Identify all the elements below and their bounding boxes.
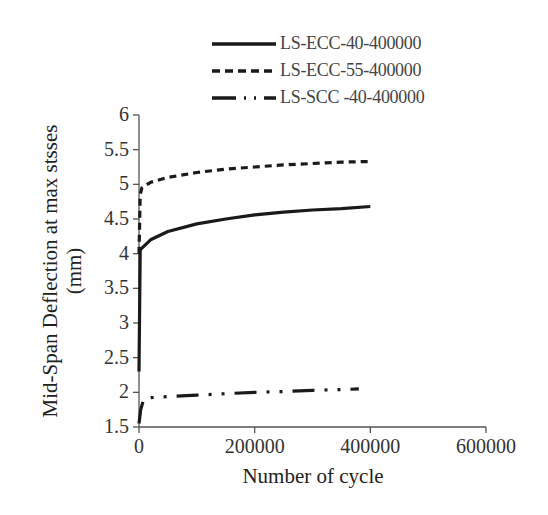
axes	[133, 115, 486, 433]
series-line-2	[139, 389, 359, 424]
y-tick-label: 2	[89, 380, 129, 403]
solid-line-swatch-icon	[210, 39, 278, 49]
legend: LS-ECC-40-400000 LS-ECC-55-400000 LS-SCC…	[210, 30, 424, 111]
y-tick-label: 6	[89, 103, 129, 126]
legend-label: LS-ECC-55-400000	[280, 60, 421, 81]
x-tick-label: 400000	[340, 435, 400, 458]
legend-item-scc-40: LS-SCC -40-400000	[210, 84, 424, 111]
y-tick-label: 4.5	[89, 207, 129, 230]
y-axis-label: Mid-Span Deflection at max stsses (mm)	[38, 125, 86, 418]
y-axis-label-line-2: (mm)	[62, 125, 86, 418]
y-tick-label: 5	[89, 172, 129, 195]
dash-dot-line-swatch-icon	[210, 93, 278, 103]
y-tick-label: 2.5	[89, 346, 129, 369]
x-axis-label: Number of cycle	[242, 464, 383, 489]
y-tick-label: 5.5	[89, 138, 129, 161]
y-tick-label: 3.5	[89, 276, 129, 299]
legend-item-ecc-40: LS-ECC-40-400000	[210, 30, 424, 57]
data-lines	[139, 162, 370, 424]
x-tick-label: 0	[134, 435, 144, 458]
legend-label: LS-ECC-40-400000	[280, 33, 421, 54]
y-tick-label: 1.5	[89, 415, 129, 438]
dashed-line-swatch-icon	[210, 66, 278, 76]
y-tick-label: 3	[89, 311, 129, 334]
x-tick-label: 200000	[225, 435, 285, 458]
y-axis-label-line-1: Mid-Span Deflection at max stsses	[38, 125, 62, 418]
legend-item-ecc-55: LS-ECC-55-400000	[210, 57, 424, 84]
y-tick-label: 4	[89, 242, 129, 265]
series-line-0	[139, 207, 370, 372]
legend-label: LS-SCC -40-400000	[280, 87, 424, 108]
x-tick-label: 600000	[456, 435, 516, 458]
